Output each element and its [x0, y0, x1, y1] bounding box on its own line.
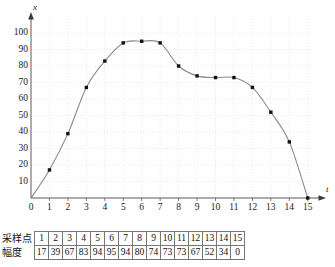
table-cell-sample-point: 15	[231, 232, 245, 246]
table-cell-amplitude: 73	[161, 246, 175, 260]
table-row: 123456789101112131415	[35, 232, 245, 246]
y-tick-label: 80	[2, 60, 28, 70]
table-cell-amplitude: 0	[231, 246, 245, 260]
table-cell-amplitude: 83	[77, 246, 91, 260]
gridlines	[32, 16, 316, 197]
y-tick-label: 90	[2, 44, 28, 54]
table-cell-sample-point: 12	[189, 232, 203, 246]
row-header-sample-points: 采样点	[2, 232, 32, 246]
x-tick-label: 7	[152, 202, 168, 212]
x-tick-label: 15	[300, 202, 316, 212]
table-cell-sample-point: 11	[175, 232, 189, 246]
x-tick-label: 2	[60, 202, 76, 212]
data-curve	[31, 41, 308, 198]
table-cell-sample-point: 1	[35, 232, 49, 246]
table-cell-amplitude: 67	[189, 246, 203, 260]
data-table: 123456789101112131415 173967839495948074…	[34, 231, 245, 260]
x-tick-label: 14	[281, 202, 297, 212]
y-axis-label: x	[33, 2, 37, 12]
data-table-container: 采样点 幅度 123456789101112131415 17396783949…	[2, 231, 245, 260]
x-tick-label: 3	[78, 202, 94, 212]
table-cell-amplitude: 67	[63, 246, 77, 260]
table-cell-amplitude: 94	[119, 246, 133, 260]
row-header-amplitude: 幅度	[2, 246, 32, 260]
x-tick-label: 10	[208, 202, 224, 212]
table-cell-sample-point: 4	[77, 232, 91, 246]
x-tick-label: 6	[134, 202, 150, 212]
table-cell-sample-point: 9	[147, 232, 161, 246]
y-tick-label: 40	[2, 126, 28, 136]
figure-container: x t 102030405060708090100 01234567891011…	[0, 0, 335, 267]
table-row: 17396783949594807473736752340	[35, 246, 245, 260]
table-cell-amplitude: 39	[49, 246, 63, 260]
x-tick-label: 5	[115, 202, 131, 212]
y-tick-label: 70	[2, 77, 28, 87]
axes	[28, 12, 326, 201]
table-cell-amplitude: 94	[91, 246, 105, 260]
table-cell-sample-point: 2	[49, 232, 63, 246]
x-tick-label: 1	[41, 202, 57, 212]
chart-plot	[0, 0, 335, 220]
table-cell-amplitude: 17	[35, 246, 49, 260]
x-tick-label: 4	[97, 202, 113, 212]
x-tick-label: 12	[244, 202, 260, 212]
table-cell-amplitude: 95	[105, 246, 119, 260]
table-cell-amplitude: 52	[203, 246, 217, 260]
y-tick-label: 10	[2, 176, 28, 186]
x-tick-label: 11	[226, 202, 242, 212]
x-tick-label: 9	[189, 202, 205, 212]
table-cell-sample-point: 8	[133, 232, 147, 246]
table-cell-amplitude: 73	[175, 246, 189, 260]
x-tick-label: 0	[23, 202, 39, 212]
y-tick-label: 30	[2, 143, 28, 153]
x-tick-label: 13	[263, 202, 279, 212]
y-tick-label: 20	[2, 159, 28, 169]
y-tick-label: 60	[2, 93, 28, 103]
y-tick-label: 100	[2, 27, 28, 37]
table-row-headers: 采样点 幅度	[2, 231, 32, 260]
table-cell-amplitude: 34	[217, 246, 231, 260]
y-tick-label: 50	[2, 110, 28, 120]
table-cell-sample-point: 14	[217, 232, 231, 246]
table-cell-sample-point: 6	[105, 232, 119, 246]
table-cell-sample-point: 3	[63, 232, 77, 246]
x-tick-label: 8	[171, 202, 187, 212]
table-cell-amplitude: 80	[133, 246, 147, 260]
table-cell-amplitude: 74	[147, 246, 161, 260]
table-cell-sample-point: 5	[91, 232, 105, 246]
x-axis-label: t	[326, 184, 329, 194]
table-cell-sample-point: 7	[119, 232, 133, 246]
table-cell-sample-point: 13	[203, 232, 217, 246]
table-cell-sample-point: 10	[161, 232, 175, 246]
